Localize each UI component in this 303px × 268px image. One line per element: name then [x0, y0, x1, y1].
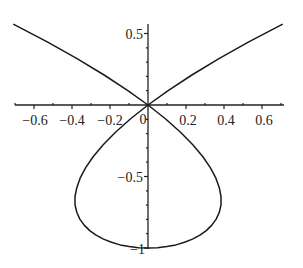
x-tick-label: 0.2 — [179, 113, 197, 128]
y-tick-label: −1 — [130, 242, 145, 257]
x-tick-label: −0.6 — [22, 113, 47, 128]
x-tick-label: 0.4 — [217, 113, 235, 128]
x-tick-label: 0.6 — [255, 113, 273, 128]
plot-area: −0.6 −0.4 −0.2 0 0.2 0.4 0.6 0.5 −0.5 −1 — [0, 0, 303, 268]
y-tick-label: 0.5 — [126, 27, 144, 42]
y-tick-label: −0.5 — [118, 170, 143, 185]
x-tick-label: −0.2 — [97, 113, 122, 128]
x-tick-label: −0.4 — [59, 113, 84, 128]
x-tick-label: 0 — [140, 112, 147, 127]
